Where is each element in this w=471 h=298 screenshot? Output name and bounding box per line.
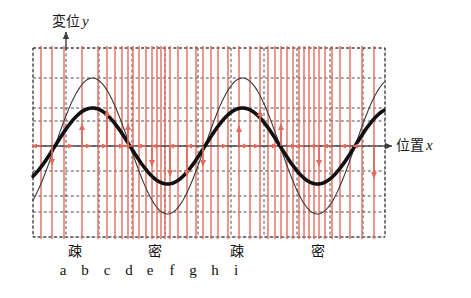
x-axis-label-text: 位置 (396, 137, 424, 153)
y-axis-variable: y (80, 13, 89, 29)
point-label-f: f (163, 262, 181, 279)
point-label-h: h (206, 262, 224, 279)
x-axis-label: 位置x (396, 134, 433, 154)
x-axis-variable: x (424, 137, 433, 153)
density-label: 密 (303, 240, 333, 260)
point-label-e: e (141, 262, 159, 279)
point-label-a: a (54, 262, 72, 279)
axis-layer (33, 32, 392, 146)
density-label: 疎 (60, 240, 90, 260)
point-label-d: d (120, 262, 138, 279)
point-label-c: c (98, 262, 116, 279)
y-axis-label-text: 変位 (52, 13, 80, 29)
y-axis-label: 変位y (52, 10, 89, 30)
point-label-i: i (227, 262, 245, 279)
point-label-g: g (184, 262, 202, 279)
wave-diagram-figure: 変位y 位置x 疎密疎密 abcdefghi (0, 0, 471, 298)
point-label-b: b (76, 262, 94, 279)
density-label: 疎 (222, 240, 252, 260)
density-label: 密 (140, 240, 170, 260)
